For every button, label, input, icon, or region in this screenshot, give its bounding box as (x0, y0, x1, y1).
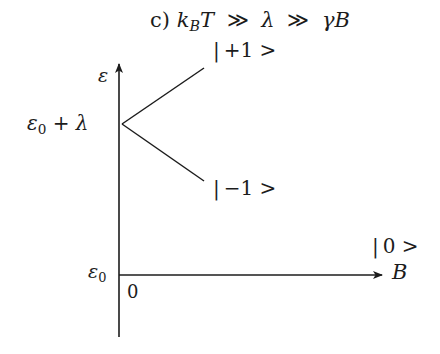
panel-label: c) (150, 8, 170, 32)
field-axis-label: B (392, 262, 407, 283)
boltzmann-k: k (177, 8, 190, 32)
state-plus-one-label: |+1 > (213, 40, 276, 60)
state-zero-label: |0 > (372, 236, 419, 256)
split-energy-label: ε0 + λ (27, 113, 89, 137)
minus-one-level-line (122, 124, 204, 181)
energy-axis-label: ε (98, 66, 108, 85)
diagram-title: c) kBT ≫ λ ≫ γB (150, 10, 350, 34)
much-greater-1: ≫ (227, 8, 249, 32)
origin-label: 0 (127, 283, 138, 301)
lambda-symbol: λ (261, 8, 274, 32)
plus-one-level-line (122, 68, 204, 124)
baseline-energy-label: ε0 (88, 262, 106, 285)
state-minus-one-label: |−1 > (213, 178, 276, 198)
temperature-symbol: T (200, 8, 214, 32)
boltzmann-subscript: B (189, 18, 199, 34)
gamma-b-symbol: γB (322, 8, 350, 32)
much-greater-2: ≫ (287, 8, 309, 32)
